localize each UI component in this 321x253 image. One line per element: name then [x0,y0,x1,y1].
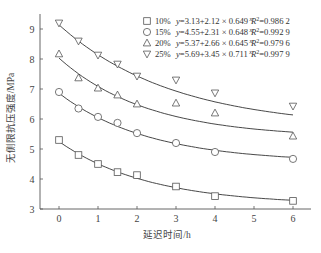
legend-equation: y=5.69+3.45 × 0.711 x [175,49,252,60]
legend-item: 25%y=5.69+3.45 × 0.711 xR2=0.997 9 [143,49,290,60]
legend-series-label: 15% [155,27,171,37]
triangle-down-marker-icon [211,90,218,97]
square-marker-icon [95,161,102,168]
series-20pct [55,50,296,139]
legend-equation: y=4.55+2.31 × 0.648 x [175,27,253,38]
triangle-up-marker-icon [289,132,296,139]
square-marker-icon [290,198,297,205]
circle-marker-icon [94,113,101,120]
y-axis-title: 无侧限抗压强度/MPa [5,72,16,163]
x-tick-label: 0 [57,213,62,224]
circle-marker-icon [211,148,218,155]
y-tick-label: 7 [30,84,35,95]
y-tick-label: 9 [30,24,35,35]
legend-item: 15%y=4.55+2.31 × 0.648 xR2=0.992 9 [143,27,289,38]
legend-equation: y=5.37+2.66 × 0.645 x [175,38,253,49]
triangle-down-marker-icon [55,20,62,27]
triangle-down-marker-icon [94,52,101,59]
legend-r-squared: R2=0.992 9 [250,27,290,38]
square-marker-icon [173,183,180,190]
circle-marker-icon [289,155,296,162]
square-marker-icon [114,169,121,176]
legend-series-label: 25% [155,49,171,59]
x-axis-title: 延迟时间/h [143,229,191,240]
triangle-up-marker-icon [75,74,82,81]
circle-marker-icon [114,119,121,126]
legend: 10%y=3.13+2.12 × 0.649 xR2=0.986 215%y=4… [143,16,290,60]
legend-item: 10%y=3.13+2.12 × 0.649 xR2=0.986 2 [144,16,290,27]
y-tick-label: 5 [30,144,35,155]
triangle-up-marker-icon [143,39,150,46]
legend-series-label: 10% [155,16,171,26]
triangle-up-marker-icon [211,109,218,116]
x-tick-label: 1 [96,213,101,224]
circle-marker-icon [133,130,140,137]
square-marker-icon [134,172,141,179]
legend-equation: y=3.13+2.12 × 0.649 x [175,16,253,27]
legend-r-squared: R2=0.979 6 [250,38,291,49]
triangle-down-marker-icon [143,51,150,58]
x-tick-label: 5 [252,213,257,224]
triangle-down-marker-icon [75,38,82,45]
circle-marker-icon [75,105,82,112]
legend-item: 20%y=5.37+2.66 × 0.645 xR2=0.979 6 [143,38,290,49]
triangle-down-marker-icon [172,77,179,84]
y-tick-label: 8 [30,54,35,65]
legend-r-squared: R2=0.986 2 [250,16,290,27]
x-tick-label: 3 [174,213,179,224]
triangle-up-marker-icon [114,91,121,98]
x-tick-label: 6 [291,213,296,224]
fit-curve-20pct [59,58,293,132]
y-tick-label: 4 [30,174,35,185]
strength-vs-delay-chart: 34567890123456 10%y=3.13+2.12 × 0.649 xR… [0,0,321,253]
square-marker-icon [212,193,219,200]
fit-curve-10pct [59,142,293,201]
circle-marker-icon [172,139,179,146]
circle-marker-icon [55,88,62,95]
square-marker-icon [75,152,82,159]
legend-r-squared: R2=0.997 9 [250,49,290,60]
legend-series-label: 20% [155,38,171,48]
triangle-down-marker-icon [133,73,140,80]
triangle-up-marker-icon [172,99,179,106]
triangle-up-marker-icon [55,50,62,57]
x-tick-label: 2 [135,213,140,224]
y-tick-label: 3 [30,204,35,215]
circle-marker-icon [143,28,150,35]
triangle-down-marker-icon [289,103,296,110]
square-marker-icon [56,137,63,144]
square-marker-icon [144,18,151,25]
y-tick-label: 6 [30,114,35,125]
x-tick-label: 4 [213,213,218,224]
